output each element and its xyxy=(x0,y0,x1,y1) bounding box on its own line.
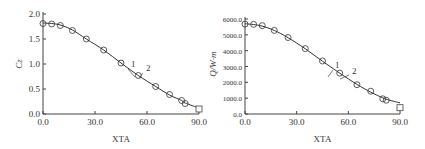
data-point xyxy=(397,105,403,111)
series-annotation: 2 xyxy=(352,66,357,76)
y-tick-label: 6000.0 xyxy=(223,16,243,24)
y-tick-label: 0.0 xyxy=(233,111,242,119)
series-annotation: 1 xyxy=(131,59,136,69)
y-tick-label: 3000.0 xyxy=(223,64,243,72)
series-line xyxy=(245,24,400,103)
y-tick-label: 5000.0 xyxy=(223,32,243,40)
y-tick-label: 1000.0 xyxy=(223,95,243,103)
data-point xyxy=(196,106,202,112)
right-chart: 0.030.060.090.00.01000.02000.03000.04000… xyxy=(208,16,408,144)
y-axis-label: Cz xyxy=(14,59,24,69)
x-tick-label: 30.0 xyxy=(87,117,103,127)
y-tick-label: 2000.0 xyxy=(223,79,243,87)
series-annotation: 2 xyxy=(146,63,151,73)
x-axis-label: XTA xyxy=(314,134,332,144)
x-tick-label: 60.0 xyxy=(139,117,155,127)
series-line xyxy=(43,23,199,108)
y-tick-label: 0.5 xyxy=(29,84,41,94)
x-tick-label: 90.0 xyxy=(392,117,408,127)
y-axis-label: Q/W·m xyxy=(208,51,218,77)
x-tick-label: 90.0 xyxy=(191,117,207,127)
left-chart: 0.030.060.090.00.00.51.01.52.0XTACz12 xyxy=(14,9,207,144)
y-tick-label: 0.0 xyxy=(29,109,41,119)
x-axis-label: XTA xyxy=(112,134,130,144)
figure: 0.030.060.090.00.00.51.01.52.0XTACz12 0.… xyxy=(0,0,425,149)
y-tick-label: 4000.0 xyxy=(223,48,243,56)
series-annotation: 1 xyxy=(335,60,340,70)
x-tick-label: 60.0 xyxy=(340,117,356,127)
x-tick-label: 30.0 xyxy=(289,117,305,127)
y-tick-label: 1.5 xyxy=(29,34,41,44)
y-tick-label: 2.0 xyxy=(29,9,41,19)
y-tick-label: 1.0 xyxy=(29,59,41,69)
